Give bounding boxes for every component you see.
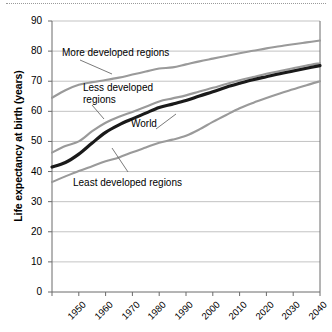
series-label-more-developed-regions: More developed regions bbox=[62, 47, 169, 59]
leader-more-developed bbox=[80, 60, 112, 74]
leader-less-developed bbox=[92, 105, 104, 119]
y-tick-label-30: 30 bbox=[16, 197, 42, 207]
leader-least-developed bbox=[112, 148, 128, 172]
series-line-less-developed-regions bbox=[52, 63, 320, 152]
y-tick-label-60: 60 bbox=[16, 106, 42, 116]
series-label-least-developed-regions: Least developed regions bbox=[73, 177, 182, 189]
y-tick-label-0: 0 bbox=[16, 287, 42, 297]
series-label-world: World bbox=[131, 118, 157, 130]
y-tick-label-70: 70 bbox=[16, 76, 42, 86]
series-label-less-developed-regions: Less developed regions bbox=[83, 82, 157, 105]
series-line-world bbox=[52, 66, 320, 167]
y-axis-ticks bbox=[48, 21, 52, 292]
y-tick-label-40: 40 bbox=[16, 167, 42, 177]
x-axis-ticks bbox=[52, 292, 320, 296]
y-tick-label-20: 20 bbox=[16, 227, 42, 237]
life-expectancy-chart: Life expectancy at birth (years) 0102030… bbox=[0, 0, 332, 332]
y-tick-label-90: 90 bbox=[16, 16, 42, 26]
y-tick-label-50: 50 bbox=[16, 136, 42, 146]
y-tick-label-80: 80 bbox=[16, 46, 42, 56]
y-tick-label-10: 10 bbox=[16, 257, 42, 267]
annotation-leader-lines bbox=[80, 60, 176, 172]
leader-world bbox=[156, 114, 176, 129]
